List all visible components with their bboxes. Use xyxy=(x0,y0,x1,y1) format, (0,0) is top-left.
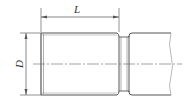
length-dimension: L xyxy=(41,3,119,32)
length-label: L xyxy=(73,3,80,15)
shaft-drawing: L D xyxy=(0,0,190,112)
diameter-label: D xyxy=(13,60,25,69)
